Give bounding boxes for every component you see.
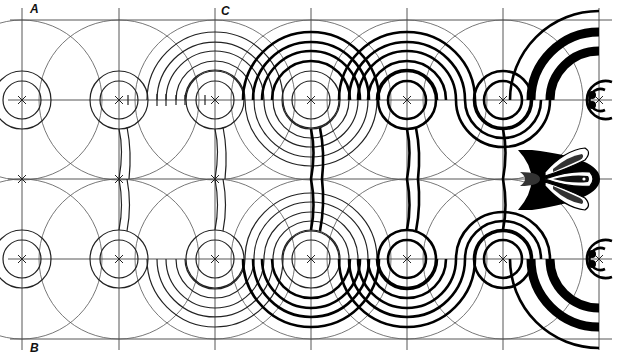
frieze-construction-drawing: A B C [0,0,617,357]
centre-circles-thin [0,71,340,288]
label-b: B [30,341,39,355]
construction-diagram [0,0,617,357]
label-a: A [30,2,39,16]
label-c: C [221,4,230,18]
construction-circles [0,20,583,339]
